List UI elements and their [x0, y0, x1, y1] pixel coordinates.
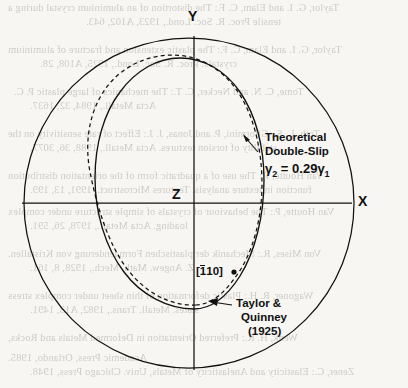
formula-equals: = 0.29 [277, 161, 317, 176]
taylor-quinney-label-line3: (1925) [248, 325, 281, 338]
theoretical-label-line1: Theoretical [265, 131, 326, 144]
taylor-quinney-leader-arrowhead [208, 298, 218, 306]
point-marker-110 [231, 269, 236, 274]
point-digits: 10 [206, 265, 219, 277]
point-label-110: [110] [196, 265, 223, 278]
gamma-1-symbol: γ [317, 161, 324, 176]
taylor-quinney-curve [95, 58, 264, 309]
axis-label-z: Z [172, 186, 181, 202]
bracket-close: ] [219, 265, 223, 277]
theoretical-label-line2: Double-Slip [265, 145, 329, 158]
gamma-1-subscript: 1 [325, 169, 330, 179]
overbar-digit: 1 [200, 265, 206, 278]
taylor-quinney-label-line1: Taylor & [236, 297, 281, 310]
projection-plot [0, 0, 408, 388]
figure-root: Taylor, G. I. and Elam, C. F.: The disto… [0, 0, 408, 388]
axis-label-y: Y [188, 8, 197, 24]
taylor-quinney-label-line2: Quinney [241, 311, 287, 324]
theoretical-leader-arrowhead [243, 134, 250, 142]
axis-label-x: X [358, 193, 367, 209]
theoretical-double-slip-curve [88, 55, 262, 305]
theoretical-label-formula: γ2 = 0.29γ1 [265, 161, 330, 179]
